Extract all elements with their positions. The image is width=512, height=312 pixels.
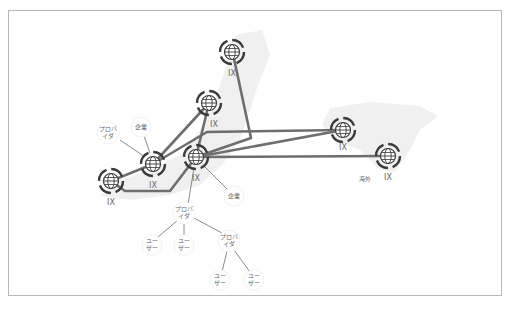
corporate-label: 企業 bbox=[228, 192, 240, 200]
overseas-label: 海外 bbox=[359, 175, 371, 183]
ix-label: IX bbox=[339, 143, 347, 152]
ix-label: IX bbox=[228, 69, 236, 78]
user-label: ユーザー bbox=[146, 237, 158, 252]
ix-label: IX bbox=[384, 173, 392, 182]
user-label: ユーザー bbox=[248, 272, 260, 287]
ix-label: IX bbox=[210, 120, 218, 129]
corporate-label: 企業 bbox=[135, 123, 147, 131]
user-label: ユーザー bbox=[214, 272, 226, 287]
ix-label: IX bbox=[149, 181, 157, 190]
ix-label: IX bbox=[107, 198, 115, 207]
network-diagram: IX IX IX IX IX IX IX 海外 企業 プロバイダ 企業 プロバイ… bbox=[0, 0, 512, 312]
ix-label: IX bbox=[192, 174, 200, 183]
user-label: ユーザー bbox=[178, 237, 190, 252]
